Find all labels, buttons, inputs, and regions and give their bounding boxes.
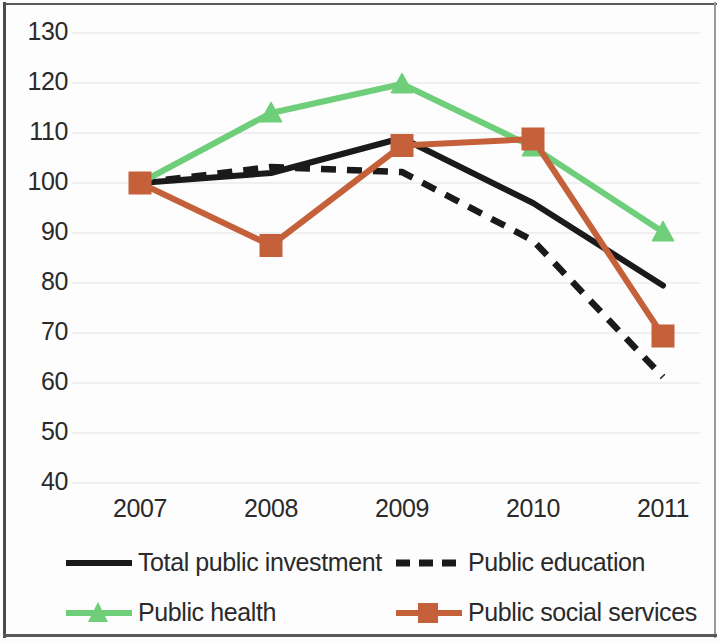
y-tick-120: 120 <box>6 67 68 96</box>
chart-legend: Total public investmentPublic educationP… <box>64 542 704 638</box>
y-tick-130: 130 <box>6 17 68 46</box>
legend-item-3[interactable]: Public social services <box>394 592 697 632</box>
marker-public_social_services <box>260 235 282 257</box>
legend-key-icon <box>394 551 464 573</box>
y-tick-90: 90 <box>6 217 68 246</box>
legend-label: Public education <box>468 548 645 577</box>
chart-page: 130120110100908070605040 200720082009201… <box>0 0 719 642</box>
legend-label: Total public investment <box>138 548 382 577</box>
legend-item-1[interactable]: Public education <box>394 542 645 582</box>
x-tick-2011: 2011 <box>608 494 718 523</box>
gridlines <box>72 33 700 483</box>
x-tick-2008: 2008 <box>216 494 326 523</box>
y-tick-70: 70 <box>6 317 68 346</box>
y-tick-100: 100 <box>6 167 68 196</box>
x-tick-2010: 2010 <box>478 494 588 523</box>
legend-item-2[interactable]: Public health <box>64 592 276 632</box>
legend-label: Public health <box>138 598 276 627</box>
x-tick-2009: 2009 <box>347 494 457 523</box>
legend-label: Public social services <box>468 598 697 627</box>
series-line-public_education <box>140 167 663 377</box>
legend-key-icon <box>64 551 134 573</box>
x-tick-2007: 2007 <box>85 494 195 523</box>
marker-public_social_services <box>522 128 544 150</box>
series-public_education <box>140 167 663 377</box>
marker-public_social_services <box>391 135 413 157</box>
legend-key-icon <box>394 601 464 623</box>
y-tick-80: 80 <box>6 267 68 296</box>
y-tick-110: 110 <box>6 117 68 146</box>
series-line-public_health <box>140 84 663 232</box>
legend-marker-square <box>418 603 438 623</box>
legend-item-0[interactable]: Total public investment <box>64 542 382 582</box>
marker-public_social_services <box>129 172 151 194</box>
y-tick-40: 40 <box>6 467 68 496</box>
y-tick-50: 50 <box>6 417 68 446</box>
marker-public_social_services <box>652 325 674 347</box>
y-tick-60: 60 <box>6 367 68 396</box>
legend-key-icon <box>64 601 134 623</box>
